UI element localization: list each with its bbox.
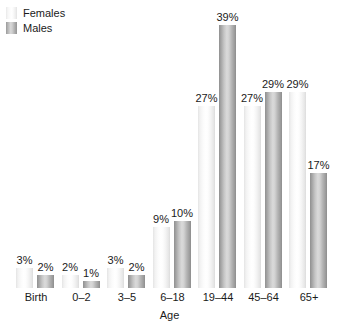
bar-value-label: 17% xyxy=(306,159,331,171)
bar xyxy=(153,227,170,288)
bar xyxy=(219,25,236,288)
bar xyxy=(128,275,145,288)
bar-value-label: 2% xyxy=(33,261,58,273)
x-tick-label: 0–2 xyxy=(56,291,108,304)
bar-value-label: 29% xyxy=(285,78,310,90)
bar-female-1: 2% xyxy=(62,0,79,289)
bar xyxy=(16,268,33,288)
bar-group: 9%10% xyxy=(151,0,195,289)
bar-value-label: 39% xyxy=(215,11,240,23)
bar-male-0: 2% xyxy=(37,0,54,289)
bar xyxy=(62,275,79,288)
bar-male-2: 2% xyxy=(128,0,145,289)
x-tick-label: 19–44 xyxy=(192,291,244,304)
bar-chart: Females Males 3%2%2%1%3%2%9%10%27%39%27%… xyxy=(0,0,339,329)
bar-group: 2%1% xyxy=(60,0,104,289)
bar-male-5: 29% xyxy=(265,0,282,289)
bar-male-4: 39% xyxy=(219,0,236,289)
bar-group: 3%2% xyxy=(105,0,149,289)
bar-female-6: 29% xyxy=(289,0,306,289)
bar-male-1: 1% xyxy=(83,0,100,289)
bar-value-label: 1% xyxy=(79,267,104,279)
legend-item-females: Females xyxy=(6,6,65,19)
x-tick-label: 6–18 xyxy=(147,291,199,304)
x-tick-label: Birth xyxy=(10,291,62,304)
bar xyxy=(265,92,282,288)
bar xyxy=(310,173,327,288)
bar xyxy=(107,268,124,288)
bar-group: 27%39% xyxy=(196,0,240,289)
bar-value-label: 10% xyxy=(170,207,195,219)
bar xyxy=(83,281,100,288)
bar-female-2: 3% xyxy=(107,0,124,289)
bar xyxy=(198,106,215,288)
legend-swatch-females-icon xyxy=(6,7,17,19)
legend-swatch-males-icon xyxy=(6,22,17,34)
bar-female-4: 27% xyxy=(198,0,215,289)
bar-group: 3%2% xyxy=(14,0,58,289)
x-tick-label: 3–5 xyxy=(101,291,153,304)
bar xyxy=(244,106,261,288)
x-axis: Birth0–23–56–1819–4445–6465+ xyxy=(0,289,339,307)
bar xyxy=(37,275,54,288)
x-axis-title: Age xyxy=(0,309,339,322)
bar xyxy=(289,92,306,288)
bar-group: 29%17% xyxy=(287,0,331,289)
bar-value-label: 27% xyxy=(240,92,265,104)
legend-label-males: Males xyxy=(23,22,52,34)
bar-male-3: 10% xyxy=(174,0,191,289)
legend-label-females: Females xyxy=(23,7,65,19)
bar-group: 27%29% xyxy=(242,0,286,289)
x-tick-label: 65+ xyxy=(283,291,335,304)
bar-value-label: 29% xyxy=(261,78,286,90)
plot-area: 3%2%2%1%3%2%9%10%27%39%27%29%29%17% xyxy=(0,0,339,289)
bar-female-0: 3% xyxy=(16,0,33,289)
legend-item-males: Males xyxy=(6,21,65,34)
x-tick-label: 45–64 xyxy=(238,291,290,304)
bar-value-label: 2% xyxy=(124,261,149,273)
bar-female-5: 27% xyxy=(244,0,261,289)
bar xyxy=(174,221,191,288)
bar-male-6: 17% xyxy=(310,0,327,289)
bar-value-label: 27% xyxy=(194,92,219,104)
bar-female-3: 9% xyxy=(153,0,170,289)
chart-legend: Females Males xyxy=(6,6,65,36)
